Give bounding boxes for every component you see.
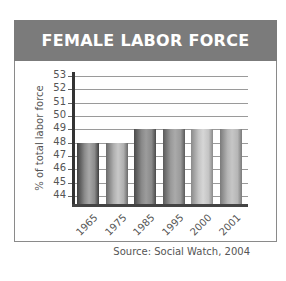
- y-tick-label: 51: [44, 96, 66, 107]
- bar-1965: [77, 143, 99, 205]
- bar-2001: [220, 129, 242, 205]
- source-note: Source: Social Watch, 2004: [113, 246, 250, 257]
- gridline: [74, 89, 248, 90]
- gridline: [74, 116, 248, 117]
- bar-1985: [134, 129, 156, 205]
- bar-1995: [163, 129, 185, 205]
- y-tick-label: 48: [44, 136, 66, 147]
- y-tick-label: 49: [44, 122, 66, 133]
- chart-title: FEMALE LABOR FORCE: [41, 31, 249, 50]
- y-tick-label: 46: [44, 162, 66, 173]
- y-axis-line: [72, 72, 75, 207]
- bar-2000: [191, 129, 213, 205]
- y-tick-label: 44: [44, 189, 66, 200]
- y-tick-label: 53: [44, 69, 66, 80]
- gridline: [74, 76, 248, 77]
- bar-1975: [106, 143, 128, 205]
- y-tick-label: 52: [44, 82, 66, 93]
- y-tick-label: 45: [44, 176, 66, 187]
- gridline: [74, 103, 248, 104]
- y-tick-label: 50: [44, 109, 66, 120]
- x-axis-line: [72, 204, 248, 207]
- chart-header: FEMALE LABOR FORCE: [14, 20, 277, 61]
- y-axis-label: % of total labor force: [34, 73, 45, 203]
- y-tick-label: 47: [44, 149, 66, 160]
